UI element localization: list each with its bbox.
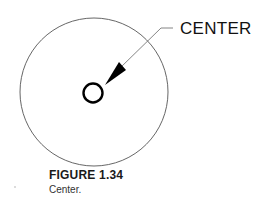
figure-caption: FIGURE 1.34 Center. [49, 168, 123, 197]
center-figure-drawing: CENTER [0, 0, 269, 210]
scan-speck [14, 186, 16, 188]
figure-caption-text: Center. [49, 183, 123, 197]
center-point-circle [84, 84, 103, 103]
outer-circle [20, 18, 168, 166]
figure-number: FIGURE 1.34 [49, 168, 123, 182]
leader-line [120, 28, 173, 68]
center-label: CENTER [180, 19, 252, 38]
